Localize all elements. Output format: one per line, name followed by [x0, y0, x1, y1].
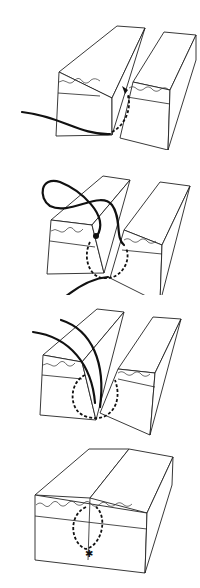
suture-step-2-illustration	[0, 150, 200, 295]
suture-tail	[65, 277, 108, 295]
needle-icon	[93, 233, 99, 239]
step-4-panel: ✱	[0, 445, 200, 588]
step-1-panel	[0, 0, 200, 150]
suture-step-3-illustration	[0, 295, 200, 445]
step-3-panel	[0, 295, 200, 445]
suture-step-4-illustration: ✱	[0, 445, 200, 588]
suture-step-1-illustration	[0, 0, 200, 150]
step-2-panel	[0, 150, 200, 295]
buried-knot-icon: ✱	[85, 548, 93, 559]
